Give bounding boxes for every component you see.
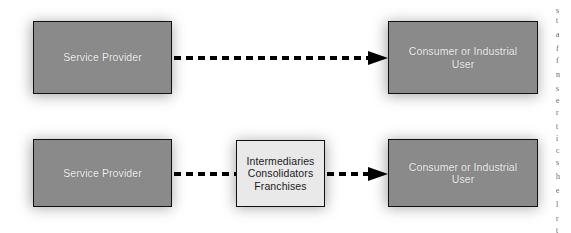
edge-text-fragment: r (556, 108, 559, 117)
node-service-provider-indirect: Service Provider (33, 139, 172, 207)
edge-text-fragment: e (556, 186, 560, 195)
node-consumer-direct: Consumer or Industrial User (388, 21, 538, 94)
edge-text-fragment: l (556, 200, 558, 209)
connector-provider-to-consumer-direct (174, 51, 389, 65)
node-label: Consumer or Industrial User (389, 45, 537, 70)
edge-text-fragment: n (556, 70, 560, 79)
node-service-provider-direct: Service Provider (33, 21, 172, 94)
adjacent-text-column-bleed: staffnserticshelrt (556, 0, 571, 233)
edge-text-fragment: s (556, 158, 559, 167)
edge-text-fragment: i (556, 134, 558, 143)
edge-text-fragment: t (556, 16, 558, 25)
edge-text-fragment: a (556, 30, 560, 39)
node-label: Consumer or Industrial User (389, 161, 537, 186)
node-label: Intermediaries Consolidators Franchises (237, 155, 324, 192)
node-consumer-indirect: Consumer or Industrial User (388, 139, 538, 207)
edge-text-fragment: s (556, 6, 559, 15)
connector-intermediaries-to-consumer (327, 167, 389, 181)
arrowhead-right-icon (368, 51, 388, 65)
edge-text-fragment: t (556, 226, 558, 233)
node-label: Service Provider (34, 167, 171, 179)
edge-text-fragment: r (556, 214, 559, 223)
edge-text-fragment: c (556, 146, 560, 155)
node-label: Service Provider (34, 51, 171, 63)
edge-text-fragment: e (556, 96, 560, 105)
connector-provider-to-intermediaries (174, 167, 236, 181)
edge-text-fragment: f (556, 56, 559, 65)
arrowhead-right-icon (368, 167, 388, 181)
channel-diagram: Service Provider Consumer or Industrial … (0, 0, 571, 233)
edge-text-fragment: t (556, 122, 558, 131)
edge-text-fragment: f (556, 44, 559, 53)
edge-text-fragment: h (556, 172, 560, 181)
edge-text-fragment: s (556, 84, 559, 93)
node-intermediaries: Intermediaries Consolidators Franchises (236, 140, 325, 207)
